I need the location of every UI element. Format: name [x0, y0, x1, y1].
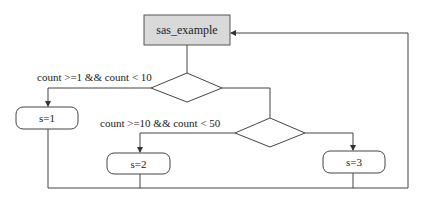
start-node-label: sas_example — [144, 15, 230, 45]
decision-node-1 — [151, 73, 222, 102]
edge-decision2-to-s2 — [140, 133, 235, 152]
process-s3-label: s=3 — [323, 151, 385, 173]
process-s2-label: s=2 — [107, 153, 170, 174]
edge-decision1-to-decision2 — [222, 88, 270, 118]
decision2-condition-label: count >=10 && count < 50 — [100, 118, 220, 129]
process-s1-label: s=1 — [16, 107, 78, 129]
decision-node-2 — [235, 118, 305, 147]
decision1-condition-label: count >=1 && count < 10 — [37, 72, 152, 83]
edge-decision1-to-s1 — [48, 88, 151, 106]
edge-decision2-to-s3 — [305, 133, 353, 150]
